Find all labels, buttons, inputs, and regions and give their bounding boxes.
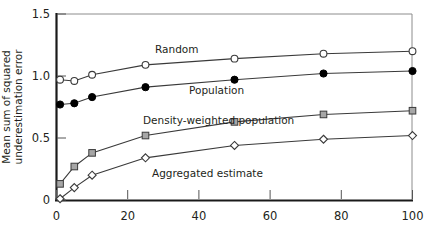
x-tick-label-60: 60 (263, 209, 278, 223)
x-tick-label-20: 20 (120, 209, 135, 223)
annotation-density-weighted-population: Density-weighted population (143, 114, 294, 126)
y-tick-label-1-5: 1.5 (32, 7, 50, 21)
data-point (409, 67, 416, 74)
x-tick-label-0: 0 (53, 209, 60, 223)
y-tick-label-0-5: 0.5 (32, 131, 50, 145)
data-point (56, 101, 63, 108)
x-tick-label-80: 80 (334, 209, 349, 223)
y-axis-title: Mean sum of squared underestimation erro… (0, 49, 24, 165)
data-point (71, 78, 78, 85)
annotation-random: Random (155, 43, 198, 55)
data-point (89, 93, 96, 100)
y-tick-label-1-0: 1.0 (32, 69, 50, 83)
data-point (231, 55, 238, 62)
data-point (320, 70, 327, 77)
y-axis-title-line1: Mean sum of squared (0, 50, 12, 164)
data-point (142, 132, 149, 139)
annotation-aggregated-estimate: Aggregated estimate (152, 167, 263, 179)
data-point (57, 181, 64, 188)
data-point (71, 163, 78, 170)
chart-svg: 1.5 1.0 0.5 0 0 20 40 60 80 100 Mean sum… (0, 0, 427, 232)
data-point (231, 76, 238, 83)
data-point (320, 111, 327, 118)
data-point (142, 61, 149, 68)
chart-container: 1.5 1.0 0.5 0 0 20 40 60 80 100 Mean sum… (0, 0, 427, 232)
y-tick-label-0: 0 (43, 193, 50, 207)
data-point (89, 71, 96, 78)
data-point (320, 50, 327, 57)
data-point (57, 76, 64, 83)
x-tick-label-100: 100 (402, 209, 424, 223)
data-point (89, 150, 96, 157)
data-point (71, 100, 78, 107)
data-point (409, 48, 416, 55)
y-axis-title-line2: underestimation error (12, 49, 24, 165)
x-tick-label-40: 40 (192, 209, 207, 223)
data-point (409, 107, 416, 114)
data-point (142, 84, 149, 91)
annotation-population: Population (189, 84, 244, 96)
